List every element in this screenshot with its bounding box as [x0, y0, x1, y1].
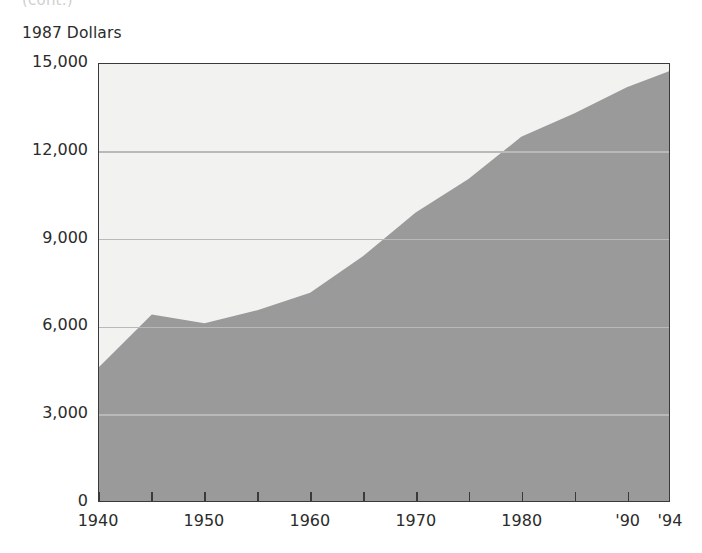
y-tick-label-9000: 9,000: [2, 228, 88, 247]
x-tick-mark-1980: [522, 492, 524, 501]
y-tick-label-3000: 3,000: [2, 403, 88, 422]
x-tick-mark-1945: [151, 492, 153, 501]
area-series: [99, 64, 669, 501]
x-tick-label-1950: 1950: [184, 511, 225, 530]
y-tick-label-15000: 15,000: [2, 52, 88, 71]
y-axis-tick-labels: 15,00012,0009,0006,0003,0000: [0, 0, 88, 553]
y-tick-label-0: 0: [2, 491, 88, 510]
x-axis-tick-labels: 19401950196019701980'90'94: [0, 511, 702, 541]
gridline-6000: [99, 327, 669, 329]
gridline-3000: [99, 414, 669, 416]
y-tick-label-6000: 6,000: [2, 315, 88, 334]
x-tick-label-1980: 1980: [501, 511, 542, 530]
x-tick-label-1970: 1970: [395, 511, 436, 530]
x-tick-label-1994: '94: [658, 511, 683, 530]
y-tick-label-12000: 12,000: [2, 140, 88, 159]
x-tick-label-1990: '90: [615, 511, 640, 530]
chart-plot-area: [98, 63, 670, 502]
x-tick-mark-1970: [416, 492, 418, 501]
x-tick-mark-1990: [628, 492, 630, 501]
x-tick-mark-1975: [469, 492, 471, 501]
x-tick-mark-1955: [257, 492, 259, 501]
gridline-9000: [99, 239, 669, 241]
area-fill: [99, 71, 669, 501]
gridline-12000: [99, 151, 669, 153]
x-tick-mark-1960: [310, 492, 312, 501]
x-tick-label-1940: 1940: [78, 511, 119, 530]
x-tick-label-1960: 1960: [289, 511, 330, 530]
x-tick-mark-1950: [204, 492, 206, 501]
x-tick-mark-1965: [363, 492, 365, 501]
x-tick-mark-1985: [575, 492, 577, 501]
x-tick-mark-1940: [98, 492, 100, 501]
